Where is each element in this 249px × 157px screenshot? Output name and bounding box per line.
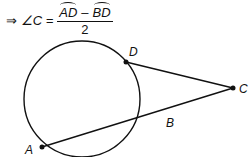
point-a xyxy=(40,145,45,150)
diagram-canvas: ⇒ ∠C = AD – BD 2 D C B A xyxy=(0,0,249,157)
geometry-figure xyxy=(0,0,249,157)
segment-ac xyxy=(42,88,233,147)
label-d: D xyxy=(129,45,138,59)
label-b: B xyxy=(166,116,174,130)
point-d xyxy=(124,60,129,65)
segment-dc xyxy=(126,62,233,88)
label-a: A xyxy=(25,143,33,157)
circle xyxy=(24,41,140,157)
point-c xyxy=(231,86,236,91)
label-c: C xyxy=(239,82,248,96)
